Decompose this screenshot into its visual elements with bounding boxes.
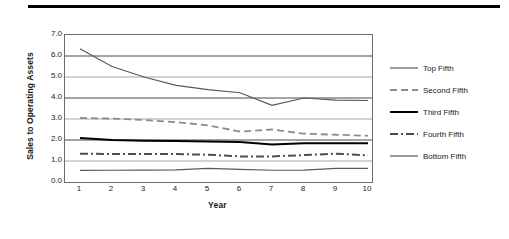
legend-label: Third Fifth	[418, 108, 459, 117]
legend-item[interactable]: Bottom Fifth	[390, 150, 466, 162]
y-axis-tick-label: 1.0	[38, 156, 62, 164]
legend-swatch	[390, 63, 418, 73]
x-axis-title: Year	[64, 200, 371, 210]
y-axis-title: Sales to Operating Assets	[22, 30, 38, 182]
y-axis-title-text: Sales to Operating Assets	[25, 52, 35, 160]
legend-item[interactable]: Fourth Fifth	[390, 128, 464, 140]
legend-label: Top Fifth	[418, 64, 454, 73]
legend-item[interactable]: Second Fifth	[390, 84, 468, 96]
y-axis-tick-label: 4.0	[38, 93, 62, 101]
x-axis-tick-label: 8	[293, 184, 313, 194]
y-axis-tick-label: 6.0	[38, 51, 62, 59]
y-axis-tick-label: 7.0	[38, 30, 62, 38]
top-rule-divider	[28, 5, 500, 8]
plot-area	[64, 34, 373, 183]
legend-label: Fourth Fifth	[418, 130, 464, 139]
y-axis-tick-label: 0.0	[38, 177, 62, 185]
legend-swatch	[390, 129, 418, 139]
x-axis-tick-label: 2	[101, 184, 121, 194]
y-axis-tick-label: 2.0	[38, 135, 62, 143]
figure-container: Sales to Operating Assets 7.06.05.04.03.…	[0, 0, 509, 239]
legend-label: Second Fifth	[418, 86, 468, 95]
chart-svg	[65, 35, 372, 182]
series-line	[80, 118, 368, 136]
legend-swatch	[390, 85, 418, 95]
legend-label: Bottom Fifth	[418, 152, 466, 161]
chart-legend: Top FifthSecond FifthThird FifthFourth F…	[390, 62, 506, 162]
legend-item[interactable]: Third Fifth	[390, 106, 459, 118]
x-axis-tick-label: 10	[357, 184, 377, 194]
y-axis-tick-label: 5.0	[38, 72, 62, 80]
x-axis-tick-label: 5	[197, 184, 217, 194]
x-axis-tick-label: 6	[229, 184, 249, 194]
legend-swatch	[390, 151, 418, 161]
x-axis-tick-label: 3	[133, 184, 153, 194]
y-axis-tick-label: 3.0	[38, 114, 62, 122]
x-axis-tick-label: 7	[261, 184, 281, 194]
legend-item[interactable]: Top Fifth	[390, 62, 454, 74]
series-line	[80, 138, 368, 145]
x-axis-tick-label: 4	[165, 184, 185, 194]
series-line	[80, 168, 368, 170]
x-axis-tick-labels: 12345678910	[64, 184, 371, 196]
y-axis-tick-labels: 7.06.05.04.03.02.01.00.0	[38, 28, 62, 188]
legend-swatch	[390, 107, 418, 117]
x-axis-tick-label: 1	[69, 184, 89, 194]
x-axis-tick-label: 9	[325, 184, 345, 194]
series-line	[80, 154, 368, 157]
